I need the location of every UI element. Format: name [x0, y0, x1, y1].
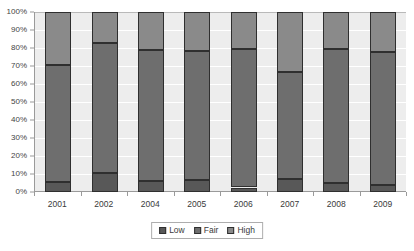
bar-segment-fair[interactable] [138, 50, 164, 181]
x-axis: 20012002200420052006200720082009 [34, 193, 406, 207]
y-axis-tick-label: 40% [11, 116, 27, 124]
y-axis-tick-mark [30, 66, 34, 67]
plot-wrapper: 0%10%20%30%40%50%60%70%80%90%100% [0, 12, 414, 192]
x-axis-tick-mark [406, 192, 407, 196]
bar-group-2008[interactable] [313, 12, 359, 191]
bar-segment-fair[interactable] [45, 65, 71, 183]
x-axis-tick-mark [267, 192, 268, 196]
x-axis-tick-mark [360, 192, 361, 196]
y-axis-tick-mark [30, 12, 34, 13]
bar-segment-low[interactable] [323, 183, 349, 192]
legend-label: High [237, 225, 254, 235]
x-axis-tick-label: 2004 [141, 199, 160, 209]
y-axis-tick-mark [30, 174, 34, 175]
bar-segment-high[interactable] [277, 12, 303, 72]
bar-segment-low[interactable] [231, 188, 257, 193]
stacked-bar[interactable] [45, 12, 71, 191]
legend-item-fair[interactable]: Fair [194, 225, 219, 235]
x-axis-tick-label: 2008 [327, 199, 346, 209]
y-axis-tick-label: 10% [11, 170, 27, 178]
bar-segment-fair[interactable] [323, 49, 349, 183]
bars-layer [35, 12, 406, 191]
bar-group-2002[interactable] [81, 12, 127, 191]
stacked-bar[interactable] [92, 12, 118, 191]
y-axis-tick-mark [30, 156, 34, 157]
x-axis-tick-mark [220, 192, 221, 196]
legend-swatch-icon [227, 227, 234, 234]
stacked-bar[interactable] [277, 12, 303, 191]
x-axis-tick-mark [174, 192, 175, 196]
bar-segment-high[interactable] [138, 12, 164, 50]
bar-segment-high[interactable] [184, 12, 210, 51]
bar-segment-high[interactable] [92, 12, 118, 43]
bar-segment-fair[interactable] [184, 51, 210, 181]
legend-label: Fair [204, 225, 219, 235]
x-axis-tick-label: 2007 [280, 199, 299, 209]
y-axis-tick-mark [30, 120, 34, 121]
legend-swatch-icon [194, 227, 201, 234]
bar-group-2009[interactable] [360, 12, 406, 191]
bar-group-2007[interactable] [267, 12, 313, 191]
x-axis-tick-mark [313, 192, 314, 196]
y-axis: 0%10%20%30%40%50%60%70%80%90%100% [0, 12, 30, 192]
page-header-text [390, 0, 406, 9]
legend-label: Low [169, 225, 185, 235]
stacked-bar[interactable] [138, 12, 164, 191]
legend-item-high[interactable]: High [227, 225, 254, 235]
bar-segment-low[interactable] [277, 179, 303, 192]
bar-segment-fair[interactable] [277, 72, 303, 180]
bar-group-2006[interactable] [221, 12, 267, 191]
stacked-bar-chart: 0%10%20%30%40%50%60%70%80%90%100% 200120… [0, 0, 414, 251]
bar-segment-low[interactable] [138, 181, 164, 192]
stacked-bar[interactable] [323, 12, 349, 191]
x-axis-tick-mark [81, 192, 82, 196]
y-axis-tick-label: 20% [11, 152, 27, 160]
bar-segment-low[interactable] [184, 180, 210, 192]
x-axis-tick-mark [127, 192, 128, 196]
y-axis-tick-label: 60% [11, 80, 27, 88]
x-axis-tick-mark [34, 192, 35, 196]
bar-segment-fair[interactable] [231, 49, 257, 188]
bar-segment-fair[interactable] [370, 52, 396, 185]
y-axis-tick-label: 0% [15, 188, 27, 196]
bar-group-2001[interactable] [35, 12, 81, 191]
x-axis-tick-label: 2009 [373, 199, 392, 209]
bar-segment-high[interactable] [370, 12, 396, 52]
y-axis-tick-mark [30, 30, 34, 31]
bar-segment-high[interactable] [45, 12, 71, 65]
stacked-bar[interactable] [370, 12, 396, 191]
y-axis-tick-mark [30, 84, 34, 85]
x-axis-tick-label: 2005 [187, 199, 206, 209]
chart-legend: LowFairHigh [151, 222, 263, 239]
legend-swatch-icon [159, 227, 166, 234]
legend-item-low[interactable]: Low [159, 225, 185, 235]
x-axis-tick-label: 2002 [94, 199, 113, 209]
bar-segment-low[interactable] [45, 182, 71, 192]
stacked-bar[interactable] [184, 12, 210, 191]
bar-group-2005[interactable] [174, 12, 220, 191]
y-axis-tick-mark [30, 48, 34, 49]
bar-segment-low[interactable] [92, 173, 118, 192]
bar-segment-fair[interactable] [92, 43, 118, 174]
y-axis-tick-label: 50% [11, 98, 27, 106]
y-axis-tick-label: 70% [11, 62, 27, 70]
y-axis-tick-mark [30, 102, 34, 103]
plot-area [34, 12, 406, 192]
y-axis-tick-mark [30, 138, 34, 139]
stacked-bar[interactable] [231, 12, 257, 191]
y-axis-tick-label: 90% [11, 26, 27, 34]
bar-segment-high[interactable] [231, 12, 257, 49]
y-axis-tick-label: 30% [11, 134, 27, 142]
y-axis-tick-label: 80% [11, 44, 27, 52]
bar-segment-high[interactable] [323, 12, 349, 49]
x-axis-tick-label: 2006 [234, 199, 253, 209]
bar-segment-low[interactable] [370, 185, 396, 192]
x-axis-tick-label: 2001 [48, 199, 67, 209]
y-axis-tick-label: 100% [7, 8, 27, 16]
bar-group-2004[interactable] [128, 12, 174, 191]
